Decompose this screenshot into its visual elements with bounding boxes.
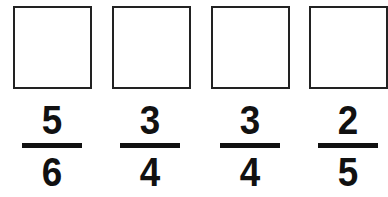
numerator: 3 — [222, 100, 277, 140]
numerator: 5 — [24, 100, 79, 140]
answer-box-1[interactable] — [13, 6, 92, 89]
fraction-bar — [22, 143, 82, 148]
denominator: 5 — [320, 152, 375, 192]
numerator: 3 — [122, 100, 177, 140]
fraction-bar — [120, 143, 180, 148]
fraction-2: 3 4 — [120, 100, 180, 192]
answer-box-4[interactable] — [309, 6, 388, 89]
fraction-bar — [220, 143, 280, 148]
fraction-3: 3 4 — [220, 100, 280, 192]
denominator: 6 — [24, 152, 79, 192]
denominator: 4 — [122, 152, 177, 192]
answer-box-3[interactable] — [211, 6, 290, 89]
answer-box-2[interactable] — [112, 6, 191, 89]
fraction-bar — [318, 143, 378, 148]
denominator: 4 — [222, 152, 277, 192]
fraction-1: 5 6 — [22, 100, 82, 192]
numerator: 2 — [320, 100, 375, 140]
fraction-4: 2 5 — [318, 100, 378, 192]
